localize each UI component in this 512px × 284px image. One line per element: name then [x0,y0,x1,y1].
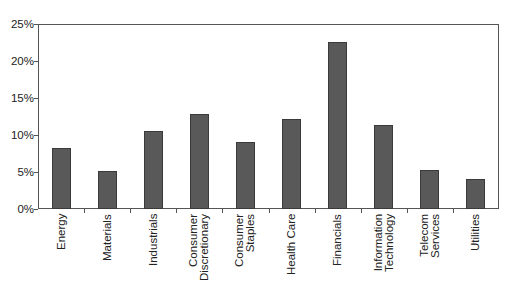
y-axis-tick [34,24,38,25]
y-axis-tick-label: 0% [17,203,34,215]
bar-consumer-staples [236,142,255,209]
bar-utilities [466,179,485,209]
bar-materials [98,171,117,209]
x-axis-category-label: Energy [56,214,67,250]
y-axis-tick-label: 25% [11,18,34,30]
sector-weight-bar-chart: 0%5%10%15%20%25%EnergyMaterialsIndustria… [0,0,512,284]
x-axis-tick [222,209,223,213]
bar-health-care [282,119,301,209]
bar-consumer-discretionary [190,114,209,209]
x-axis-tick [453,209,454,213]
x-axis-category-label: Utilities [470,214,481,251]
y-axis-tick [34,209,38,210]
y-axis-tick [34,135,38,136]
y-axis-tick [34,172,38,173]
x-axis-category-label: Telecom Services [419,214,441,258]
x-axis-tick [176,209,177,213]
x-axis-category-label: Financials [332,214,343,266]
bar-financials [328,42,347,209]
y-axis-tick-label: 10% [11,129,34,141]
y-axis-tick-label: 20% [11,55,34,67]
y-axis-tick [34,98,38,99]
x-axis-tick [269,209,270,213]
x-axis-tick [84,209,85,213]
bar-telecom-services [420,170,439,209]
bar-energy [52,148,71,209]
x-axis-tick [361,209,362,213]
bar-information-technology [374,125,393,209]
bar-industrials [144,131,163,209]
x-axis-tick [315,209,316,213]
x-axis-category-label: Information Technology [373,214,395,272]
y-axis-tick [34,61,38,62]
y-axis-tick-label: 5% [17,166,34,178]
x-axis-category-label: Consumer Staples [234,214,256,267]
x-axis-category-label: Consumer Discretionary [188,214,210,281]
x-axis-category-label: Industrials [148,214,159,266]
y-axis-tick-label: 15% [11,92,34,104]
x-axis-category-label: Health Care [286,214,297,275]
x-axis-tick [130,209,131,213]
x-axis-category-label: Materials [102,214,113,261]
x-axis-tick [407,209,408,213]
